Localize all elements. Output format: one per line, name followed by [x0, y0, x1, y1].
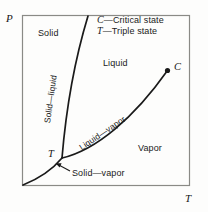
- sublimation-curve: [23, 158, 62, 185]
- y-axis-label: P: [6, 12, 13, 24]
- phase-diagram: P T Solid Liquid Vapor Solid—liquid Liqu…: [0, 0, 208, 212]
- legend-symbol-c: C: [97, 14, 104, 25]
- triple-point-label: T: [48, 148, 54, 159]
- fusion-curve: [62, 16, 88, 158]
- x-axis-label: T: [185, 192, 191, 204]
- legend-text-triple: Triple state: [112, 26, 157, 36]
- legend-entry-triple: T—Triple state: [97, 25, 157, 36]
- critical-point-marker: [165, 68, 170, 73]
- legend-dash-triple: —: [103, 26, 112, 36]
- region-label-liquid: Liquid: [103, 58, 128, 68]
- legend-text-critical: Critical state: [113, 15, 164, 25]
- region-label-solid: Solid: [38, 28, 59, 38]
- legend-dash-critical: —: [104, 15, 113, 25]
- critical-point-label: C: [174, 61, 181, 72]
- region-label-vapor: Vapor: [138, 143, 162, 153]
- curve-label-solid-vapor: Solid—vapor: [72, 168, 125, 178]
- legend-entry-critical: C—Critical state: [97, 14, 164, 25]
